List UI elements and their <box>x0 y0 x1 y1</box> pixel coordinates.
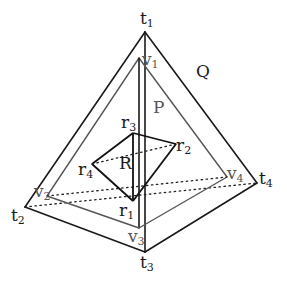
label-body-p: P <box>153 97 164 117</box>
label-t1: t1 <box>140 8 154 30</box>
label-t3: t3 <box>140 252 154 274</box>
label-t2: t2 <box>11 205 25 227</box>
label-v3: v3 <box>127 226 145 248</box>
tetrahedron-r <box>92 133 176 201</box>
edge-t3-t4 <box>145 183 257 252</box>
label-r2: r2 <box>176 135 191 157</box>
nested-tetrahedra-diagram: t1 t2 t3 t4 v1 v2 v3 v4 r3 r2 r4 r1 Q P … <box>0 0 287 283</box>
tetrahedron-q <box>25 32 257 252</box>
label-v1: v1 <box>141 49 159 71</box>
label-v4: v4 <box>226 163 244 185</box>
label-r3: r3 <box>121 112 136 134</box>
hidden-edge-t2-t4 <box>25 183 257 207</box>
label-body-r: R <box>119 153 133 173</box>
label-r4: r4 <box>78 159 93 181</box>
label-t4: t4 <box>259 168 273 190</box>
tetrahedron-p <box>47 58 227 228</box>
label-body-q: Q <box>196 61 210 81</box>
edge-v1-v4 <box>139 58 227 177</box>
label-v2: v2 <box>33 181 51 203</box>
label-r1: r1 <box>119 200 134 222</box>
